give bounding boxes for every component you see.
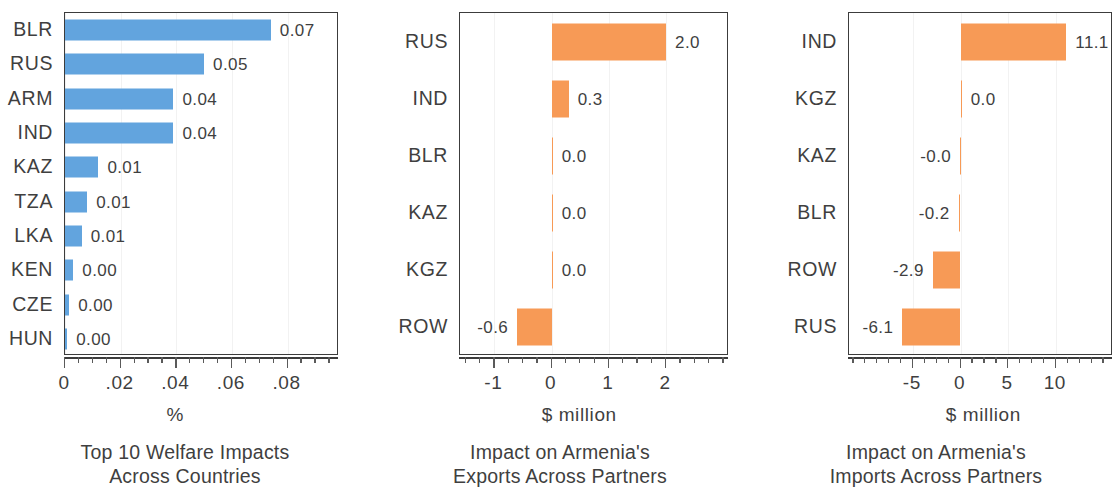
x-tick-minor — [924, 357, 925, 363]
category-label: KGZ — [406, 261, 448, 281]
x-tick-minor — [995, 357, 996, 363]
x-tick-minor — [888, 357, 889, 363]
x-axis-1: -1012 — [459, 357, 728, 359]
bar — [961, 80, 962, 117]
x-tick-minor — [1067, 357, 1068, 363]
x-tick-label: -5 — [903, 373, 921, 392]
x-tick-label: 2 — [659, 373, 670, 392]
x-tick-minor — [936, 357, 937, 363]
category-label: KAZ — [797, 146, 837, 166]
bar — [552, 252, 553, 289]
x-tick-minor — [203, 357, 204, 363]
x-tick-minor — [1019, 357, 1020, 363]
bar-value-label: 0.0 — [971, 90, 996, 107]
x-tick-major — [608, 357, 609, 368]
caption-line: Impact on Armenia's — [760, 440, 1112, 464]
category-label: ROW — [788, 261, 837, 281]
x-tick-major — [665, 357, 666, 368]
x-tick-minor — [971, 357, 972, 363]
bar-value-label: -0.0 — [920, 147, 951, 164]
category-label: ROW — [399, 318, 448, 338]
category-label: RUS — [794, 318, 837, 338]
bar — [65, 123, 173, 144]
category-label: ARM — [8, 89, 53, 109]
x-tick-minor — [594, 357, 595, 363]
gridline — [913, 13, 914, 354]
category-label: CZE — [12, 295, 53, 315]
bar-value-label: 0.01 — [96, 193, 131, 210]
bar — [65, 225, 82, 246]
x-tick-label: 10 — [1044, 373, 1066, 392]
x-tick-minor — [92, 357, 93, 363]
x-tick-minor — [328, 357, 329, 363]
x-axis-title-0: % — [167, 405, 185, 424]
x-tick-minor — [536, 357, 537, 363]
bar-value-label: 0.00 — [82, 262, 117, 279]
bar-value-label: 0.00 — [78, 296, 113, 313]
x-tick-major — [551, 357, 552, 368]
category-label: BLR — [13, 20, 53, 40]
bar-value-label: 0.0 — [562, 147, 587, 164]
x-tick-label: 5 — [1002, 373, 1013, 392]
x-tick-minor — [300, 357, 301, 363]
x-tick-major — [1055, 357, 1056, 368]
category-label: KGZ — [795, 89, 837, 109]
bar — [933, 252, 961, 289]
bar — [960, 137, 961, 174]
category-label: IND — [802, 32, 837, 52]
bar-value-label: -6.1 — [862, 319, 893, 336]
category-label: TZA — [14, 192, 53, 212]
bar — [65, 328, 67, 349]
bar — [65, 54, 204, 75]
x-tick-label: 0 — [545, 373, 556, 392]
category-label: KEN — [11, 261, 53, 281]
x-tick-minor — [1031, 357, 1032, 363]
x-tick-minor — [622, 357, 623, 363]
x-tick-minor — [694, 357, 695, 363]
x-tick-minor — [679, 357, 680, 363]
category-label: BLR — [797, 203, 837, 223]
x-tick-major — [912, 357, 913, 368]
x-tick-minor — [722, 357, 723, 363]
bar-value-label: 0.01 — [91, 227, 126, 244]
x-tick-label: .04 — [161, 373, 189, 392]
category-label: RUS — [405, 32, 448, 52]
x-tick-minor — [1079, 357, 1080, 363]
x-tick-minor — [147, 357, 148, 363]
x-tick-major — [231, 357, 232, 368]
bar — [961, 23, 1067, 60]
bar — [65, 191, 87, 212]
x-tick-minor — [106, 357, 107, 363]
x-tick-label: 0 — [954, 373, 965, 392]
x-tick-minor — [161, 357, 162, 363]
x-tick-minor — [900, 357, 901, 363]
gridline — [1056, 13, 1057, 354]
category-label: HUN — [9, 329, 53, 349]
x-tick-label: .08 — [272, 373, 300, 392]
category-label: RUS — [10, 55, 53, 75]
bar-value-label: 2.0 — [675, 33, 700, 50]
bar — [552, 23, 666, 60]
bar — [517, 309, 551, 346]
x-axis-0: 0.02.04.06.08 — [64, 357, 338, 359]
category-label: KAZ — [408, 203, 448, 223]
figure-three-panel-bar-charts: BLR0.07RUS0.05ARM0.04IND0.04KAZ0.01TZA0.… — [0, 0, 1112, 500]
bar-value-label: 0.0 — [562, 262, 587, 279]
caption-line: Exports Across Partners — [380, 464, 740, 488]
plot-area-2: IND11.1KGZ0.0KAZ-0.0BLR-0.2ROW-2.9RUS-6.… — [848, 12, 1112, 355]
x-tick-minor — [259, 357, 260, 363]
x-tick-minor — [217, 357, 218, 363]
x-tick-minor — [948, 357, 949, 363]
gridline — [961, 13, 962, 354]
bar-value-label: -0.2 — [919, 205, 950, 222]
bar-value-label: 0.3 — [578, 90, 603, 107]
x-tick-major — [64, 357, 65, 368]
x-tick-minor — [876, 357, 877, 363]
gridline — [288, 13, 289, 354]
x-tick-minor — [852, 357, 853, 363]
caption-line: Top 10 Welfare Impacts — [0, 440, 370, 464]
category-label: IND — [18, 123, 53, 143]
panel-export-impacts: RUS2.0IND0.3BLR0.0KAZ0.0KGZ0.0ROW-0.6 -1… — [380, 0, 740, 500]
bar — [65, 88, 173, 109]
x-tick-major — [960, 357, 961, 368]
